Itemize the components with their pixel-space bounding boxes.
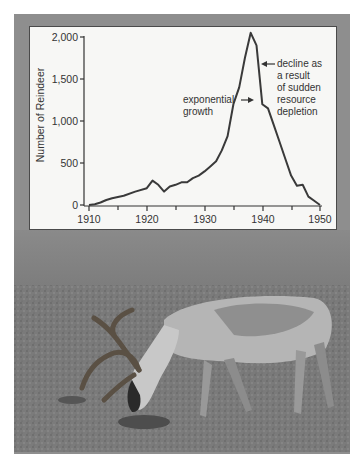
annotation-decline-line5: depletion: [277, 106, 318, 117]
y-tick-labels: 2,000 1,500 1,000 500 0: [52, 31, 78, 211]
x-tick-labels: 1910 1920 1930 1940 1950: [77, 213, 332, 225]
annotation-growth-line1: exponential: [183, 94, 234, 105]
annotation-decline-line1: decline as: [277, 58, 322, 69]
y-tick-2000: 2,000: [52, 31, 78, 43]
y-tick-1000: 1,000: [52, 115, 78, 127]
annotation-growth-line2: growth: [183, 106, 213, 117]
reindeer-photo: [14, 230, 350, 452]
annotation-decline-line2: a result: [277, 70, 310, 81]
annotation-decline-line3: of sudden: [277, 82, 321, 93]
x-tick-1910: 1910: [77, 213, 101, 225]
y-axis-label: Number of Reindeer: [34, 67, 46, 162]
y-tick-1500: 1,500: [52, 73, 78, 85]
y-tick-500: 500: [60, 157, 78, 169]
annotation-decline: decline as a result of sudden resource d…: [261, 58, 322, 117]
x-tick-1930: 1930: [193, 213, 217, 225]
arrow-left-icon: [261, 61, 275, 67]
line-chart: Number of Reindeer 2,000 1,500 1,000 500…: [30, 27, 338, 231]
reindeer-photo-illustration: [14, 230, 350, 452]
y-tick-0: 0: [72, 199, 78, 211]
annotation-exponential-growth: exponential growth: [183, 94, 254, 117]
x-tick-1950: 1950: [308, 213, 332, 225]
chart-panel: Number of Reindeer 2,000 1,500 1,000 500…: [29, 26, 337, 230]
x-tick-1940: 1940: [251, 213, 275, 225]
arrow-right-icon: [241, 97, 254, 103]
x-tick-1920: 1920: [135, 213, 159, 225]
figure-frame: Number of Reindeer 2,000 1,500 1,000 500…: [14, 14, 350, 454]
annotation-decline-line4: resource: [277, 94, 316, 105]
